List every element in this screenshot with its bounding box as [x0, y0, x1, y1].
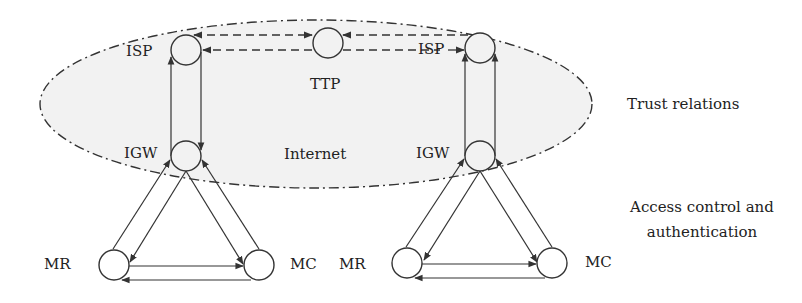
internet-label: Internet [284, 147, 346, 162]
right-mr-node [392, 248, 422, 278]
left-mc-node [244, 250, 274, 280]
ttp-node [313, 28, 343, 58]
left-isp-node [171, 35, 201, 65]
left-isp-label: ISP [126, 44, 152, 59]
right-mc-node [537, 248, 567, 278]
ttp-label: TTP [310, 77, 340, 92]
right-mr-label: MR [339, 257, 366, 272]
right-mc-label: MC [585, 255, 612, 270]
right-isp-node [465, 33, 495, 63]
left-igw-node [171, 141, 201, 171]
left-igw-label: IGW [124, 146, 157, 161]
access-control-annotation-line1: Access control and [604, 200, 800, 215]
left-mr-node [99, 250, 129, 280]
right-igw-node [465, 141, 495, 171]
left-mc-label: MC [290, 257, 317, 272]
access-control-annotation-line2: authentication [604, 225, 800, 240]
right-isp-label: ISP [418, 42, 444, 57]
right-igw-label: IGW [416, 146, 449, 161]
network-trust-diagram [0, 0, 802, 303]
trust-relations-annotation: Trust relations [627, 97, 739, 112]
left-mr-label: MR [44, 257, 71, 272]
